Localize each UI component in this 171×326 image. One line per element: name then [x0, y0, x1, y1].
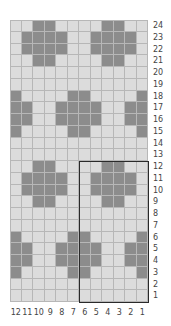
light-stitch-cell [102, 126, 114, 138]
column-label: 6 [79, 308, 91, 317]
light-stitch-cell [10, 138, 22, 150]
dark-stitch-cell [33, 161, 45, 173]
light-stitch-cell [125, 220, 137, 232]
dark-stitch-cell [45, 55, 57, 67]
light-stitch-cell [33, 67, 45, 79]
dark-stitch-cell [102, 20, 114, 32]
light-stitch-cell [45, 149, 57, 161]
row-label: 15 [153, 126, 163, 138]
light-stitch-cell [125, 208, 137, 220]
light-stitch-cell [33, 220, 45, 232]
light-stitch-cell [45, 91, 57, 103]
light-stitch-cell [22, 149, 34, 161]
light-stitch-cell [114, 79, 126, 91]
dark-stitch-cell [125, 114, 137, 126]
row-label: 19 [153, 79, 163, 91]
light-stitch-cell [91, 267, 103, 279]
dark-stitch-cell [22, 32, 34, 44]
light-stitch-cell [33, 290, 45, 302]
light-stitch-cell [68, 67, 80, 79]
light-stitch-cell [56, 161, 68, 173]
light-stitch-cell [68, 185, 80, 197]
light-stitch-cell [102, 255, 114, 267]
dark-stitch-cell [68, 243, 80, 255]
light-stitch-cell [137, 138, 149, 150]
dark-stitch-cell [79, 243, 91, 255]
dark-stitch-cell [91, 32, 103, 44]
dark-stitch-cell [125, 102, 137, 114]
dark-stitch-cell [79, 267, 91, 279]
dark-stitch-cell [114, 44, 126, 56]
dark-stitch-cell [33, 44, 45, 56]
light-stitch-cell [102, 149, 114, 161]
dark-stitch-cell [10, 243, 22, 255]
row-label: 18 [153, 91, 163, 103]
light-stitch-cell [68, 55, 80, 67]
light-stitch-cell [125, 290, 137, 302]
dark-stitch-cell [137, 267, 149, 279]
light-stitch-cell [137, 79, 149, 91]
light-stitch-cell [10, 44, 22, 56]
light-stitch-cell [137, 149, 149, 161]
dark-stitch-cell [79, 232, 91, 244]
light-stitch-cell [102, 290, 114, 302]
light-stitch-cell [114, 290, 126, 302]
row-label: 16 [153, 114, 163, 126]
dark-stitch-cell [137, 114, 149, 126]
light-stitch-cell [22, 20, 34, 32]
light-stitch-cell [114, 126, 126, 138]
light-stitch-cell [91, 91, 103, 103]
dark-stitch-cell [79, 102, 91, 114]
light-stitch-cell [45, 279, 57, 291]
light-stitch-cell [114, 138, 126, 150]
dark-stitch-cell [68, 267, 80, 279]
row-label: 10 [153, 185, 163, 197]
dark-stitch-cell [114, 196, 126, 208]
dark-stitch-cell [91, 185, 103, 197]
light-stitch-cell [10, 149, 22, 161]
light-stitch-cell [22, 55, 34, 67]
column-label: 4 [102, 308, 114, 317]
light-stitch-cell [33, 138, 45, 150]
light-stitch-cell [91, 208, 103, 220]
column-label: 11 [22, 308, 34, 317]
light-stitch-cell [10, 161, 22, 173]
row-label: 2 [153, 279, 158, 291]
light-stitch-cell [102, 79, 114, 91]
light-stitch-cell [137, 173, 149, 185]
light-stitch-cell [125, 161, 137, 173]
light-stitch-cell [125, 196, 137, 208]
light-stitch-cell [125, 138, 137, 150]
light-stitch-cell [45, 267, 57, 279]
dark-stitch-cell [45, 196, 57, 208]
column-label: 7 [68, 308, 80, 317]
light-stitch-cell [10, 196, 22, 208]
light-stitch-cell [114, 149, 126, 161]
dark-stitch-cell [22, 44, 34, 56]
light-stitch-cell [114, 67, 126, 79]
light-stitch-cell [22, 67, 34, 79]
dark-stitch-cell [33, 55, 45, 67]
row-label: 4 [153, 255, 158, 267]
light-stitch-cell [10, 220, 22, 232]
light-stitch-cell [125, 149, 137, 161]
light-stitch-cell [79, 79, 91, 91]
dark-stitch-cell [137, 102, 149, 114]
light-stitch-cell [125, 79, 137, 91]
dark-stitch-cell [114, 185, 126, 197]
dark-stitch-cell [91, 114, 103, 126]
row-label: 6 [153, 232, 158, 244]
dark-stitch-cell [68, 126, 80, 138]
colorwork-chart-grid [10, 20, 148, 302]
light-stitch-cell [79, 149, 91, 161]
light-stitch-cell [45, 126, 57, 138]
column-label: 3 [114, 308, 126, 317]
light-stitch-cell [137, 208, 149, 220]
light-stitch-cell [56, 126, 68, 138]
light-stitch-cell [10, 79, 22, 91]
light-stitch-cell [137, 196, 149, 208]
dark-stitch-cell [10, 91, 22, 103]
dark-stitch-cell [125, 32, 137, 44]
dark-stitch-cell [45, 185, 57, 197]
column-label: 1 [137, 308, 149, 317]
